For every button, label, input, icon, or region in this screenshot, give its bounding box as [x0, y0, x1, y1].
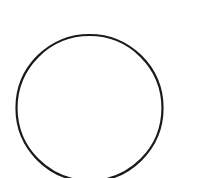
- diagram-canvas: [0, 0, 213, 178]
- shape-layer: [0, 0, 213, 178]
- circle-outline-shape: [17, 35, 163, 178]
